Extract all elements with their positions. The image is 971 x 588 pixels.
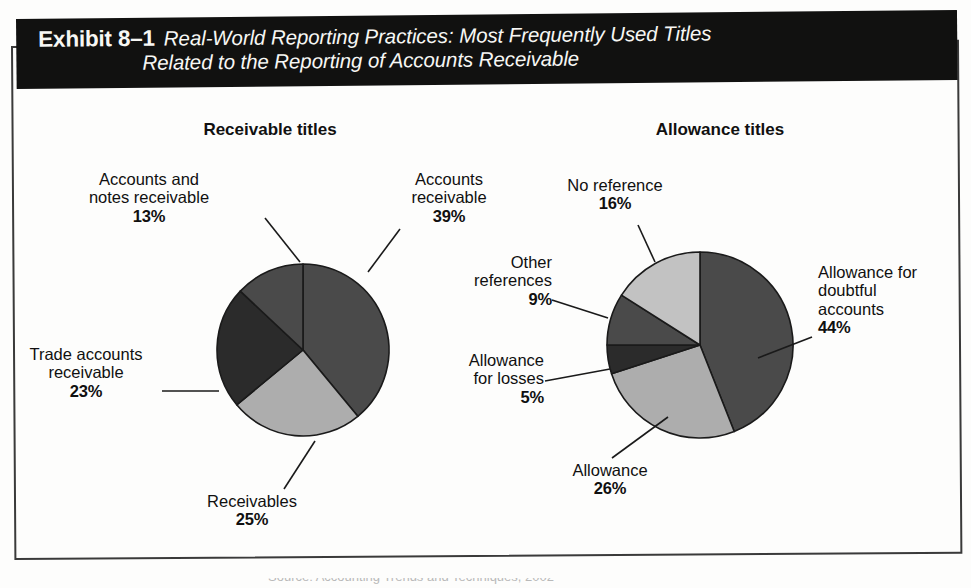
label-allowance-for-losses: Allowance for losses 5% [426, 351, 544, 406]
exhibit-figure: Exhibit 8–1Real-World Reporting Practice… [0, 0, 971, 588]
source-caption-text: Source: Accounting Trends and Techniques… [268, 578, 554, 584]
leader-line-allowance-for-losses [545, 369, 610, 381]
leader-line-no-reference [638, 225, 655, 262]
pie-slices-allowance [607, 252, 793, 438]
label-other-references: Other references 9% [432, 253, 552, 308]
leader-line-other-references [552, 300, 608, 318]
label-no-reference: No reference 16% [543, 176, 687, 213]
leader-line-allowance [612, 417, 668, 458]
label-allowance: Allowance 26% [545, 461, 675, 498]
source-caption-clipped: Source: Accounting Trends and Techniques… [0, 578, 971, 588]
label-allowance-for-doubtful-accounts: Allowance for doubtful accounts 44% [818, 263, 968, 337]
